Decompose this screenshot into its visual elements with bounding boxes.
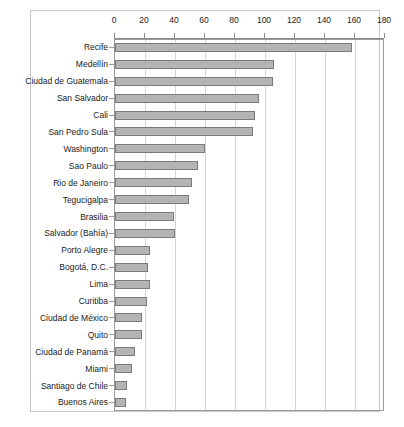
bar[interactable] [115, 43, 352, 52]
category-label: Lima [0, 279, 108, 289]
bar[interactable] [115, 229, 175, 238]
category-tick-mark [109, 334, 114, 335]
category-label: Ciudad de México [0, 313, 108, 323]
bar-row: Tegucigalpa [31, 191, 379, 208]
x-tick-mark [324, 33, 325, 38]
category-label: Porto Alegre [0, 245, 108, 255]
category-label: Miami [0, 364, 108, 374]
bar[interactable] [115, 60, 274, 69]
bar[interactable] [115, 94, 259, 103]
bar-row: Medellín [31, 56, 379, 73]
bar-row: Ciudad de Panamá [31, 343, 379, 360]
bar[interactable] [115, 313, 142, 322]
category-tick-mark [109, 284, 114, 285]
category-tick-mark [109, 199, 114, 200]
bar-rows: RecifeMedellínCiudad de GuatemalaSan Sal… [31, 39, 379, 411]
bar-row: Porto Alegre [31, 242, 379, 259]
category-label: Tegucigalpa [0, 195, 108, 205]
bar-row: Rio de Janeiro [31, 174, 379, 191]
bar[interactable] [115, 347, 135, 356]
x-tick-mark [384, 33, 385, 38]
category-label: Ciudad de Panamá [0, 347, 108, 357]
x-tick-mark [354, 33, 355, 38]
category-tick-mark [109, 233, 114, 234]
x-tick-label: 0 [112, 15, 117, 25]
bar-row: Brasilia [31, 208, 379, 225]
bar[interactable] [115, 178, 192, 187]
x-tick-label: 180 [377, 15, 391, 25]
category-tick-mark [109, 351, 114, 352]
bar-row: San Pedro Sula [31, 124, 379, 141]
bar-row: Quito [31, 326, 379, 343]
category-tick-mark [109, 81, 114, 82]
bar[interactable] [115, 280, 150, 289]
bar-row: Bogotá, D.C. [31, 259, 379, 276]
category-label: Sao Paulo [0, 161, 108, 171]
category-label: Ciudad de Guatemala [0, 76, 108, 86]
bar[interactable] [115, 330, 142, 339]
category-tick-mark [109, 216, 114, 217]
x-tick-label: 100 [257, 15, 271, 25]
category-tick-mark [109, 182, 114, 183]
category-label: Medellín [0, 59, 108, 69]
category-tick-mark [109, 131, 114, 132]
bar[interactable] [115, 195, 189, 204]
bar-row: Recife [31, 39, 379, 56]
x-tick-mark [114, 33, 115, 38]
bar[interactable] [115, 77, 273, 86]
bar[interactable] [115, 246, 150, 255]
category-tick-mark [109, 267, 114, 268]
category-label: Santiago de Chile [0, 381, 108, 391]
bar-row: Washington [31, 140, 379, 157]
bar[interactable] [115, 263, 148, 272]
x-axis: 020406080100120140160180 [31, 11, 379, 41]
category-tick-mark [109, 64, 114, 65]
category-tick-mark [109, 47, 114, 48]
category-tick-mark [109, 301, 114, 302]
x-tick-label: 60 [199, 15, 208, 25]
bar[interactable] [115, 398, 126, 407]
bar[interactable] [115, 161, 198, 170]
bar-row: Salvador (Bahía) [31, 225, 379, 242]
category-tick-mark [109, 115, 114, 116]
bar-row: Cali [31, 107, 379, 124]
bar-row: Ciudad de Guatemala [31, 73, 379, 90]
x-tick-mark [264, 33, 265, 38]
x-tick-label: 160 [347, 15, 361, 25]
bar-row: Miami [31, 360, 379, 377]
bar[interactable] [115, 111, 255, 120]
category-label: Washington [0, 144, 108, 154]
category-tick-mark [109, 250, 114, 251]
category-label: Rio de Janeiro [0, 178, 108, 188]
bar[interactable] [115, 144, 205, 153]
category-label: Curitiba [0, 296, 108, 306]
category-tick-mark [109, 368, 114, 369]
category-label: Bogotá, D.C. [0, 262, 108, 272]
x-tick-label: 140 [317, 15, 331, 25]
bar[interactable] [115, 297, 147, 306]
category-tick-mark [109, 165, 114, 166]
category-label: Quito [0, 330, 108, 340]
category-tick-mark [109, 148, 114, 149]
bar[interactable] [115, 127, 253, 136]
bar-row: San Salvador [31, 90, 379, 107]
bar-row: Buenos Aires [31, 394, 379, 411]
category-label: Buenos Aires [0, 397, 108, 407]
bar-row: Lima [31, 276, 379, 293]
category-label: San Pedro Sula [0, 127, 108, 137]
bar[interactable] [115, 364, 132, 373]
category-label: Cali [0, 110, 108, 120]
category-label: Salvador (Bahía) [0, 228, 108, 238]
bar[interactable] [115, 381, 127, 390]
x-tick-label: 20 [139, 15, 148, 25]
bar[interactable] [115, 212, 174, 221]
category-tick-mark [109, 402, 114, 403]
x-tick-mark [174, 33, 175, 38]
bar-row: Santiago de Chile [31, 377, 379, 394]
category-tick-mark [109, 317, 114, 318]
x-tick-mark [204, 33, 205, 38]
x-tick-mark [144, 33, 145, 38]
bar-row: Ciudad de México [31, 310, 379, 327]
chart-frame: 020406080100120140160180 RecifeMedellínC… [30, 10, 380, 412]
bar-row: Sao Paulo [31, 157, 379, 174]
